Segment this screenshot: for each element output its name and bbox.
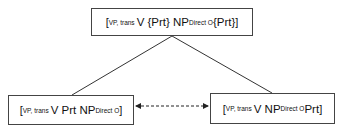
node-top: [VP, trans V {Prt} NPDirect O {Prt}] <box>91 8 253 36</box>
node-top-text-2: {Prt} <box>213 16 235 28</box>
node-left-close-bracket: ] <box>119 104 122 116</box>
edge-top-left <box>72 36 172 95</box>
node-right-close-bracket: ] <box>319 103 322 115</box>
node-left-object-subscript: Direct O <box>95 107 119 114</box>
node-right: [VP, trans V NPDirect O Prt] <box>210 93 335 124</box>
node-left-text-1: V Prt NP <box>51 104 96 116</box>
node-top-text-1: V {Prt} NP <box>137 16 189 28</box>
node-right-text-2: Prt <box>304 103 319 115</box>
node-right-label-subscript: VP, trans <box>226 105 252 112</box>
edge-top-right <box>172 36 272 93</box>
node-right-object-subscript: Direct O <box>281 105 305 112</box>
node-top-label-subscript: VP, trans <box>109 19 135 26</box>
node-top-object-subscript: Direct O <box>189 19 213 26</box>
node-top-close-bracket: ] <box>235 16 238 28</box>
node-right-text-1: V NP <box>254 103 281 115</box>
node-left: [VP, trans V Prt NPDirect O] <box>8 95 134 125</box>
node-left-label-subscript: VP, trans <box>23 107 49 114</box>
